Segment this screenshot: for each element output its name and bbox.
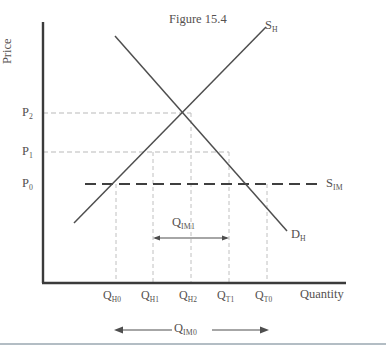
quantity-tick-qt0-base: Q: [255, 288, 264, 302]
home-supply-curve-label-base: S: [265, 18, 272, 32]
home-supply-curve: [74, 27, 266, 223]
price-tick-p2: P2: [22, 106, 33, 119]
qim1-span-label-base: Q: [172, 215, 181, 229]
home-demand-curve-label-sub: H: [300, 234, 306, 243]
quantity-tick-qh0-sub: H0: [112, 295, 122, 304]
quantity-tick-qh1-base: Q: [141, 288, 150, 302]
quantity-tick-qh1: QH1: [141, 289, 159, 301]
price-tick-p0-sub: 0: [29, 183, 33, 192]
qim1-span-label-sub: IM1: [181, 222, 195, 231]
figure-title: Figure 15.4: [169, 13, 227, 26]
quantity-tick-qt1-sub: T1: [226, 295, 235, 304]
qim0-span-label: QIM0: [174, 322, 197, 335]
price-tick-p1-sub: 1: [29, 151, 33, 160]
import-supply-curve-label-sub: IM: [333, 183, 343, 192]
price-tick-p0: P0: [22, 177, 33, 190]
quantity-tick-qh2-sub: H2: [188, 295, 198, 304]
home-demand-curve-label: DH: [291, 228, 306, 241]
price-tick-p2-sub: 2: [29, 112, 33, 121]
quantity-tick-qh2-base: Q: [179, 288, 188, 302]
home-supply-curve-label: SH: [265, 19, 278, 32]
qim0-span-label-base: Q: [174, 321, 183, 335]
price-tick-p2-base: P: [22, 105, 29, 119]
price-tick-p1: P1: [22, 145, 33, 158]
qim0-span-label-sub: IM0: [183, 328, 197, 337]
quantity-tick-qt0-sub: T0: [264, 295, 273, 304]
home-demand-curve-label-base: D: [291, 227, 300, 241]
price-tick-p1-base: P: [22, 144, 29, 158]
quantity-tick-qh0: QH0: [103, 289, 121, 301]
home-supply-curve-label-sub: H: [272, 25, 278, 34]
quantity-tick-qh2: QH2: [179, 289, 197, 301]
quantity-tick-qh0-base: Q: [103, 288, 112, 302]
quantity-tick-qt1-base: Q: [217, 288, 226, 302]
qim1-span-label: QIM1: [172, 216, 195, 229]
x-axis-label: Quantity: [300, 288, 344, 301]
import-supply-curve-label-base: S: [326, 176, 333, 190]
import-supply-curve-label: SIM: [326, 177, 343, 190]
y-axis-label: Price: [1, 38, 14, 64]
price-tick-p0-base: P: [22, 176, 29, 190]
figure-container: Figure 15.4 Price Quantity P2 P1 P0 QH0 …: [0, 0, 386, 348]
home-demand-curve: [115, 36, 287, 231]
quantity-tick-qt0: QT0: [255, 289, 272, 301]
quantity-tick-qh1-sub: H1: [150, 295, 160, 304]
quantity-tick-qt1: QT1: [217, 289, 234, 301]
